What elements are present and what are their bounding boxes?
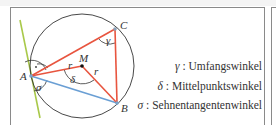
point-A xyxy=(29,74,33,78)
point-B xyxy=(115,101,119,105)
delta-arc xyxy=(64,69,94,84)
label-M: M xyxy=(78,52,89,64)
legend-item-delta: δ : Mittelpunktswinkel xyxy=(138,77,262,97)
legend-text: Mittelpunktswinkel xyxy=(172,80,262,92)
side-CB xyxy=(115,29,117,103)
legend-separator: : xyxy=(182,60,185,72)
label-delta: δ xyxy=(70,73,76,85)
label-gamma: γ xyxy=(106,34,111,46)
label-C: C xyxy=(120,19,128,31)
legend-symbol: γ xyxy=(175,60,180,72)
label-A: A xyxy=(19,70,27,82)
legend-text: Sehnentangentenwinkel xyxy=(152,99,262,111)
right-angle-dot xyxy=(35,66,37,68)
legend-symbol: σ xyxy=(138,99,144,111)
label-sigma: σ xyxy=(36,81,42,93)
label-r-MA: r xyxy=(68,59,73,71)
label-r-MB: r xyxy=(94,65,99,77)
legend-separator: : xyxy=(146,99,149,111)
point-C xyxy=(113,27,117,31)
point-M xyxy=(80,64,84,68)
legend-text: Umfangswinkel xyxy=(189,60,262,72)
label-B: B xyxy=(121,102,128,114)
legend-item-gamma: γ : Umfangswinkel xyxy=(138,57,262,77)
legend-symbol: δ xyxy=(158,80,163,92)
side-AC xyxy=(31,29,115,76)
legend-separator: : xyxy=(166,80,169,92)
legend-item-sigma: σ : Sehnentangentenwinkel xyxy=(138,96,262,116)
angle-legend: γ : Umfangswinkel δ : Mittelpunktswinkel… xyxy=(138,57,262,116)
